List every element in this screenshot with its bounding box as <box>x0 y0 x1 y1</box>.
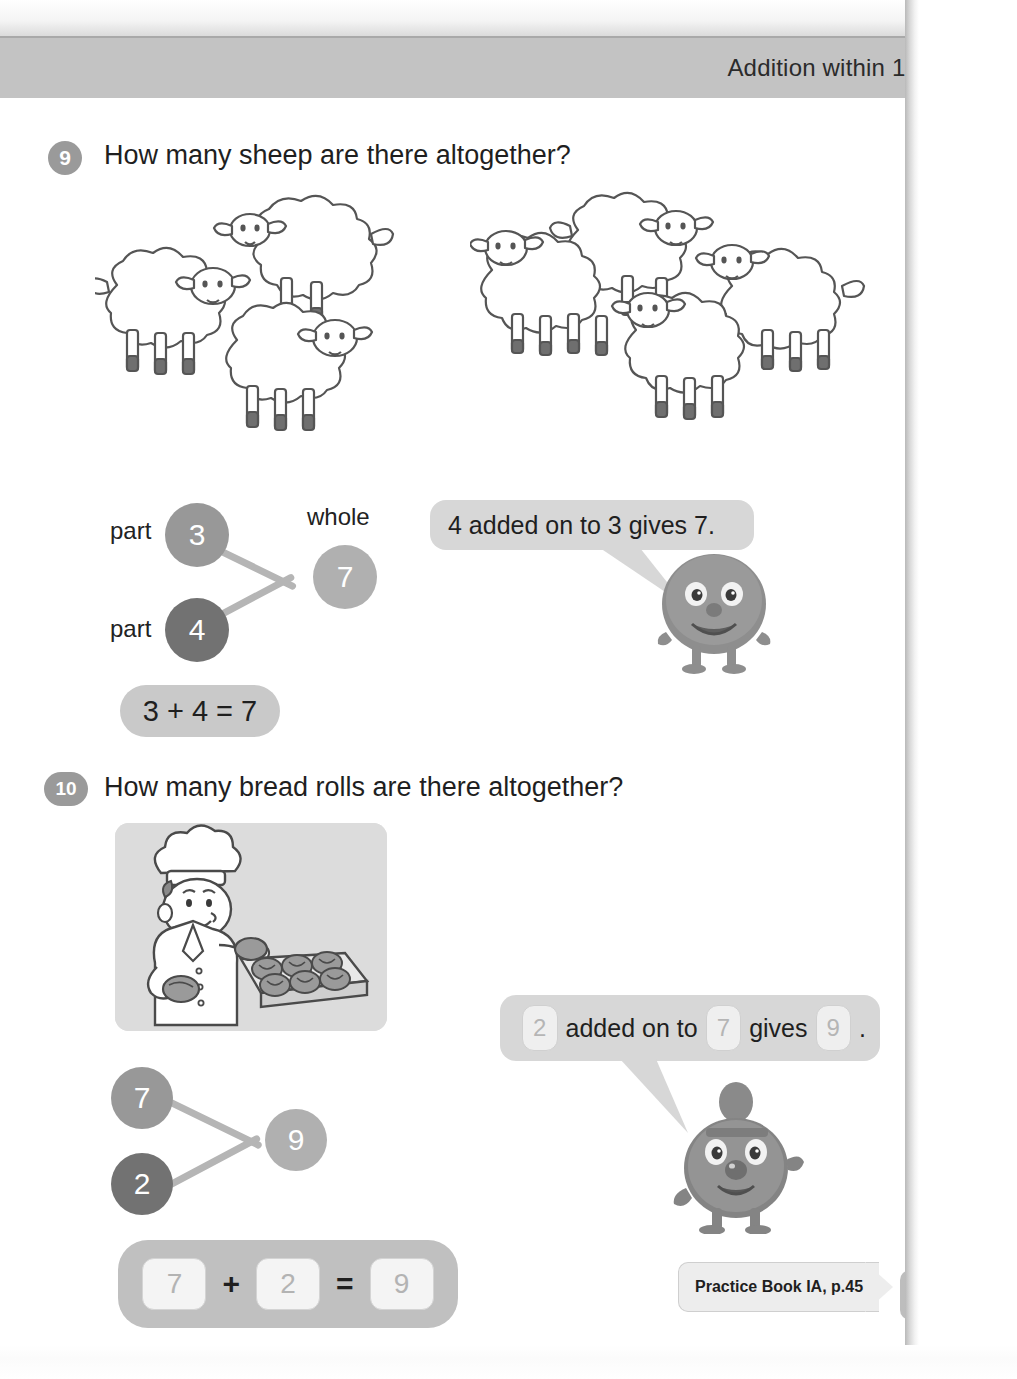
question-prompt-10: How many bread rolls are there altogethe… <box>104 772 623 803</box>
sheep-group-left <box>95 190 425 444</box>
number-bond-9: part part whole 3 4 7 <box>110 495 410 665</box>
equation-box-result[interactable]: 9 <box>370 1258 434 1310</box>
textbook-page: Addition within 10Unit 3 9 How many shee… <box>0 0 1017 1379</box>
equation-pill-10: 7 + 2 = 9 <box>118 1240 458 1328</box>
page-right-edge <box>905 0 919 1379</box>
bubble-box-b[interactable]: 7 <box>706 1005 742 1051</box>
mascot-character-1 <box>652 548 776 674</box>
bubble-box-c[interactable]: 9 <box>816 1005 852 1051</box>
practice-book-label: Practice Book IA, p.45 <box>695 1278 863 1296</box>
bond-node-whole: 7 <box>313 545 377 609</box>
equation-pill-9: 3 + 4 = 7 <box>120 685 280 737</box>
speech-bubble-9: 4 added on to 3 gives 7. <box>430 500 754 550</box>
sheep-illustration-left <box>95 190 425 440</box>
speech-bubble-10: 2 added on to 7 gives 9 . <box>500 995 880 1061</box>
bubble-period: . <box>859 1014 866 1043</box>
baker-illustration-panel <box>115 823 387 1031</box>
bond-connector-bottom-10 <box>165 1134 261 1189</box>
bond-node-whole-10: 9 <box>265 1109 327 1171</box>
bond-node-part-a: 3 <box>165 503 229 567</box>
bubble-box-a[interactable]: 2 <box>522 1005 558 1051</box>
mascot-character-2 <box>662 1072 804 1234</box>
bond-label-part-bottom: part <box>110 615 151 643</box>
bond-label-whole: whole <box>307 503 370 531</box>
speech-bubble-9-text: 4 added on to 3 gives 7. <box>448 511 715 540</box>
page-bottom-edge <box>0 1345 1017 1379</box>
chapter-title: Addition within 10 <box>727 54 919 81</box>
bond-node-part-a-10: 7 <box>111 1067 173 1129</box>
question-number-9: 9 <box>48 141 82 175</box>
sheep-group-right <box>470 190 870 439</box>
practice-tag-arrow <box>865 1262 893 1312</box>
sheep-illustration-right <box>470 190 870 435</box>
bond-node-part-b: 4 <box>165 598 229 662</box>
equation-box-first[interactable]: 7 <box>142 1258 206 1310</box>
bubble-text-2: gives <box>749 1014 807 1043</box>
page-top-edge <box>0 0 1017 38</box>
bubble-text-1: added on to <box>566 1014 698 1043</box>
page-outer-margin <box>919 0 1017 1379</box>
baker-illustration <box>115 823 387 1031</box>
equation-operator-plus: + <box>220 1267 242 1301</box>
equation-operator-equals: = <box>334 1267 356 1301</box>
bond-node-part-b-10: 2 <box>111 1153 173 1215</box>
question-prompt-9: How many sheep are there altogether? <box>104 140 571 171</box>
practice-book-tag[interactable]: Practice Book IA, p.45 <box>678 1262 879 1312</box>
number-bond-10: 7 2 9 <box>105 1065 355 1215</box>
question-number-10: 10 <box>44 772 88 806</box>
equation-box-second[interactable]: 2 <box>256 1258 320 1310</box>
bond-label-part-top: part <box>110 517 151 545</box>
